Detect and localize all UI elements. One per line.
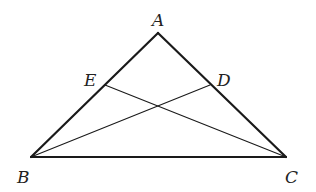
vertex-labels: ABCDE: [16, 10, 298, 187]
segment-ab: [31, 33, 158, 157]
label-d: D: [216, 70, 231, 90]
triangle-diagram: ABCDE: [0, 0, 316, 192]
label-e: E: [83, 70, 97, 90]
segment-ac: [158, 33, 286, 157]
label-a: A: [150, 10, 164, 30]
segment-ce: [105, 85, 286, 157]
label-b: B: [16, 167, 30, 187]
segments: [31, 33, 286, 157]
label-c: C: [285, 167, 298, 187]
segment-bd: [31, 85, 210, 157]
diagram-svg: ABCDE: [0, 0, 316, 192]
